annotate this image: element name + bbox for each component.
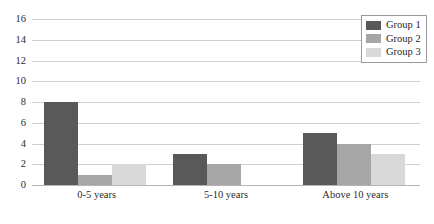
legend-item[interactable]: Group 3 [366, 47, 421, 58]
bar [78, 175, 112, 185]
bar [303, 133, 337, 185]
bar [337, 144, 371, 186]
y-tick-label-10: 10 [2, 76, 26, 87]
y-tick-label-12: 12 [2, 56, 26, 67]
y-tick-label-4: 4 [2, 139, 26, 150]
legend-label: Group 2 [386, 34, 421, 45]
y-tick-label-6: 6 [2, 118, 26, 129]
y-tick-label-8: 8 [2, 97, 26, 108]
legend-swatch-icon [366, 21, 381, 30]
bar [207, 164, 241, 185]
gridline-0 [32, 185, 420, 186]
y-tick-label-14: 14 [2, 35, 26, 46]
legend-label: Group 1 [386, 20, 421, 31]
bar [44, 102, 78, 185]
legend-swatch-icon [366, 48, 381, 57]
legend-item[interactable]: Group 1 [366, 20, 421, 31]
bar-cluster [161, 19, 290, 185]
bar [173, 154, 207, 185]
x-tick-label: 0-5 years [32, 190, 161, 201]
legend-label: Group 3 [386, 47, 421, 58]
bar-chart: 0246810121416 0-5 years5-10 yearsAbove 1… [0, 0, 434, 224]
bar [371, 154, 405, 185]
y-tick-label-2: 2 [2, 159, 26, 170]
legend: Group 1Group 2Group 3 [361, 15, 427, 63]
y-tick-label-0: 0 [2, 180, 26, 191]
x-tick-label: Above 10 years [291, 190, 420, 201]
x-tick-label: 5-10 years [161, 190, 290, 201]
legend-swatch-icon [366, 34, 381, 43]
legend-item[interactable]: Group 2 [366, 34, 421, 45]
y-tick-label-16: 16 [2, 14, 26, 25]
bar [112, 164, 146, 185]
bar-cluster [32, 19, 161, 185]
